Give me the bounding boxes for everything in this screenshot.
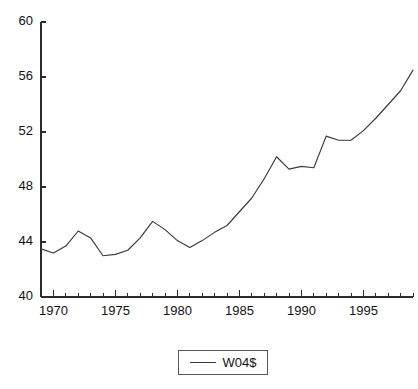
y-tick-marks	[41, 22, 46, 297]
y-axis-group: 404448525660	[19, 13, 46, 303]
x-minor-tick-marks	[41, 293, 413, 297]
series-line-W04$	[41, 70, 413, 256]
x-axis-group: 197019751980198519901995	[39, 290, 413, 318]
y-tick-label: 52	[19, 123, 33, 138]
x-tick-label: 1990	[287, 303, 316, 318]
y-tick-labels: 404448525660	[19, 13, 33, 303]
x-tick-label: 1980	[163, 303, 192, 318]
chart-legend: W04$	[178, 350, 268, 375]
x-tick-labels: 197019751980198519901995	[39, 303, 378, 318]
line-chart-plot: 404448525660 197019751980198519901995	[0, 0, 418, 389]
legend-series-label: W04$	[223, 356, 257, 369]
x-tick-label: 1970	[39, 303, 68, 318]
y-tick-label: 40	[19, 288, 33, 303]
legend-line-swatch	[190, 362, 216, 363]
y-tick-label: 44	[19, 233, 33, 248]
y-tick-label: 60	[19, 13, 33, 28]
chart-container: 404448525660 197019751980198519901995 W0…	[0, 0, 418, 389]
x-tick-label: 1995	[349, 303, 378, 318]
x-tick-label: 1975	[101, 303, 130, 318]
x-major-tick-marks	[53, 290, 363, 297]
data-series-group	[41, 70, 413, 256]
x-tick-label: 1985	[225, 303, 254, 318]
y-tick-label: 56	[19, 68, 33, 83]
y-tick-label: 48	[19, 178, 33, 193]
